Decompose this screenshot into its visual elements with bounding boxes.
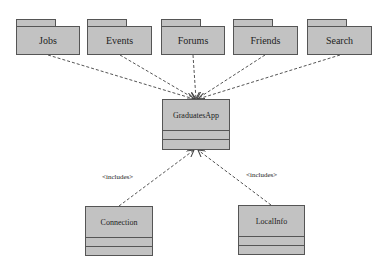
operations-compartment [163, 140, 229, 149]
class-connection[interactable]: Connection [85, 206, 153, 256]
edge-forums-to-app [193, 55, 196, 99]
operations-compartment [239, 246, 304, 255]
package-label: Events [87, 26, 152, 55]
class-name: Connection [86, 207, 152, 238]
package-label: Search [307, 26, 372, 55]
operations-compartment [86, 247, 152, 256]
package-jobs[interactable]: Jobs [16, 19, 80, 55]
package-events[interactable]: Events [87, 19, 152, 55]
package-label: Friends [233, 26, 298, 55]
edge-events-to-app [120, 55, 195, 99]
class-localinfo[interactable]: LocalInfo [238, 205, 305, 255]
stereotype-label-localinfo: <includes> [246, 171, 277, 179]
package-search[interactable]: Search [307, 19, 372, 55]
class-name: LocalInfo [239, 206, 304, 237]
attributes-compartment [163, 131, 229, 140]
attributes-compartment [86, 238, 152, 247]
stereotype-label-connection: <includes> [102, 173, 133, 181]
package-forums[interactable]: Forums [161, 19, 225, 55]
edge-search-to-app [198, 55, 340, 99]
package-label: Jobs [16, 26, 80, 55]
edge-jobs-to-app [48, 55, 194, 99]
attributes-compartment [239, 237, 304, 246]
package-label: Forums [161, 26, 225, 55]
edge-friends-to-app [197, 55, 265, 99]
class-name: GraduatesApp [163, 100, 229, 131]
package-friends[interactable]: Friends [233, 19, 298, 55]
class-graduatesapp[interactable]: GraduatesApp [162, 99, 230, 150]
